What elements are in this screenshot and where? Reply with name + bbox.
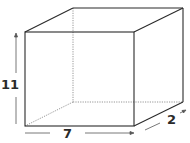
visible-edges (25, 8, 183, 126)
height-label: 11 (1, 78, 19, 91)
depth-label: 2 (167, 113, 176, 126)
width-dimension-arrow (25, 132, 134, 135)
hidden-edges (25, 8, 183, 126)
prism-diagram (0, 0, 190, 143)
width-label: 7 (63, 127, 72, 140)
front-face (25, 32, 134, 126)
depth-dimension-arrow (145, 110, 186, 130)
